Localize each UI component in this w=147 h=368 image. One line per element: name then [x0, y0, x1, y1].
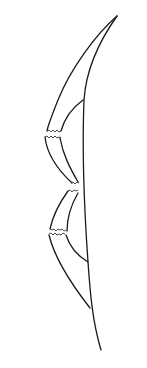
break-mark	[47, 130, 61, 132]
upper-limb-fragment-outer	[45, 137, 72, 183]
line-drawing	[0, 0, 147, 368]
lower-limb-inner	[66, 235, 88, 262]
lower-limb-fragment-inner	[67, 193, 78, 231]
main-stem	[83, 16, 117, 350]
break-mark	[45, 136, 61, 138]
lower-limb-fragment-outer	[50, 191, 68, 229]
upper-limb-inner	[61, 100, 83, 131]
drawing-canvas	[0, 0, 147, 368]
break-mark	[50, 229, 66, 231]
lower-limb-outer	[49, 235, 90, 308]
upper-limb-fragment-inner	[60, 138, 78, 182]
break-mark	[49, 233, 65, 235]
break-mark	[68, 190, 78, 192]
